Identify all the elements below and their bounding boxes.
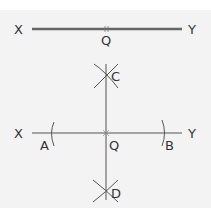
label-c: C: [111, 69, 120, 84]
label-q: Q: [109, 138, 119, 153]
label-b: B: [165, 138, 174, 153]
arc-a: [52, 122, 55, 146]
figure-segment-xy: X Y Q: [14, 22, 196, 48]
label-d: D: [111, 186, 121, 201]
construction-diagram: X Y Q X Y Q A B C D: [0, 0, 211, 208]
label-y: Y: [187, 126, 196, 141]
figure-perpendicular-bisector: X Y Q A B C D: [14, 64, 196, 202]
label-a: A: [40, 138, 49, 153]
label-x: X: [14, 126, 23, 141]
label-q-top: Q: [101, 33, 111, 48]
label-x-top: X: [14, 22, 23, 37]
label-y-top: Y: [187, 22, 196, 37]
